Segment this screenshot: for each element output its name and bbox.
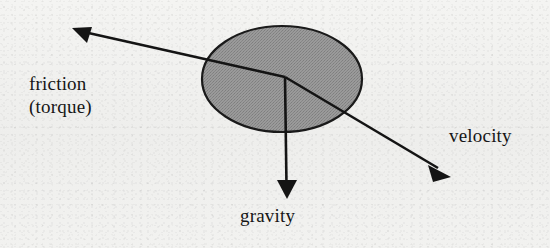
velocity-label: velocity — [449, 124, 512, 147]
gravity-vector-shaft — [285, 77, 287, 186]
gravity-arrowhead — [277, 180, 297, 199]
force-diagram-figure: friction (torque) velocity gravity — [0, 0, 550, 248]
gravity-label: gravity — [240, 204, 295, 227]
velocity-arrowhead — [428, 165, 451, 182]
friction-label-line2: (torque) — [29, 95, 92, 118]
friction-arrowhead — [72, 27, 92, 43]
rolling-body-ellipse — [202, 26, 362, 132]
friction-label: friction (torque) — [29, 72, 92, 118]
friction-label-line1: friction — [29, 72, 92, 95]
